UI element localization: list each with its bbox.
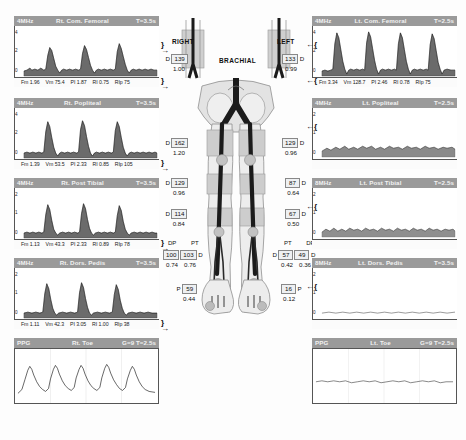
ppg-panel-rt-toe[interactable]: PPG Rt. Toe G=9 T=2.5s [14,338,159,404]
probe-frequency: 4MHz [17,16,43,26]
waveform-trace [313,188,457,239]
waveform-stats: Fm 1.96 Vm 75.4 PI 1.87 RI 0.75 RIp 75 [14,78,159,87]
pressure-toe-right[interactable]: P59 0.44 [175,284,197,303]
vessel-name: Lt. Dors. Pedis [341,258,420,268]
pressure-index: 1.20 [170,149,188,157]
waveform-header: 4MHz Lt. Com. Femoral T=2.5s [312,16,457,26]
pressure-ankle-right[interactable]: 100103D 0.740.76 [163,250,204,269]
stat-ri: RI 0.75 [92,79,108,85]
y-tick: 2 [313,112,316,117]
stat-fm: Fm 1.96 [21,79,40,85]
waveform-panel-lt-dors-pedis[interactable]: 8MHz Lt. Dors. Pedis T=3.5s 2 1 0 ←{ [312,258,457,329]
y-axis-ticks: 2 1 0 [313,268,322,319]
y-tick: 2 [313,192,316,197]
y-tick: 0 [15,230,18,235]
stat-vm: Vm 75.4 [46,79,65,85]
pressure-marker: P [175,285,182,293]
pressure-brachial-right[interactable]: D139 1.00 [164,54,188,73]
pressure-above-knee-right[interactable]: D129 0.96 [164,178,188,197]
pressure-ankle-left[interactable]: D5749D 0.420.36 [271,250,317,269]
y-axis-ticks: 4 2 0 [313,26,322,77]
stat-rip: RIp 38 [114,321,129,327]
pt-label: PT [191,240,199,246]
y-tick: 0 [313,150,316,155]
waveform-panel-rt-post-tibial[interactable]: 4MHz Rt. Post Tibial T=3.5s 2 1 0 Fm 1.1… [14,178,159,249]
y-tick: 0 [313,310,316,315]
pressure-below-knee-right[interactable]: D114 0.84 [164,209,187,228]
stat-rip: RIp 78 [115,241,130,247]
ppg-plot[interactable] [312,348,457,404]
waveform-plot[interactable]: 2 1 0 [312,188,457,240]
probe-frequency: 4MHz [17,178,43,188]
pressure-value: 139 [171,54,187,64]
vessel-name: Rt. Com. Femoral [43,16,122,26]
stat-ri: RI 0.89 [92,241,108,247]
waveform-plot[interactable]: 4 2 0 [14,26,159,78]
pressure-value: 87 [285,178,300,188]
pressure-value: 162 [171,138,187,148]
ppg-panel-lt-toe[interactable]: PPG Lt. Toe G=9 T=2.5s [312,338,457,404]
pressure-index: 0.99 [282,65,300,73]
waveform-header: 8MHz Lt. Dors. Pedis T=3.5s [312,258,457,268]
y-axis-ticks: 2 1 0 [15,268,24,319]
sweep-time: T=3.5s [122,178,156,188]
waveform-plot[interactable]: 2 1 0 [312,268,457,320]
y-tick: 1 [15,210,18,215]
vessel-name: Lt. Popliteal [341,98,420,108]
left-side-label: LEFT [277,38,294,45]
stat-vm: Vm 43.3 [46,241,65,247]
pressure-value: 114 [171,209,187,219]
stat-pi: PI 2.46 [371,79,387,85]
waveform-panel-rt-com-femoral[interactable]: 4MHz Rt. Com. Femoral T=3.5s 4 2 0 Fm 1.… [14,16,159,87]
pressure-above-knee-left[interactable]: 87D 0.64 [285,178,307,197]
pressure-marker: D [197,251,204,259]
y-tick: 2 [15,130,18,135]
pressure-index: 0.44 [181,295,197,303]
waveform-plot[interactable]: 2 1 0 [14,268,159,320]
pressure-marker: D [298,139,305,147]
pressure-brachial-left[interactable]: 133D 0.99 [282,54,306,73]
waveform-panel-lt-post-tibial[interactable]: 8MHz Lt. Post Tibial T=2.5s 2 1 0 ←{ [312,178,457,249]
pressure-index: 0.12 [281,295,297,303]
y-tick: 2 [15,272,18,277]
stat-fm: Fm 3.34 [319,79,338,85]
waveform-panel-rt-popliteal[interactable]: 4MHz Rt. Popliteal T=3.5s 4 2 0 Fm 1.39 … [14,98,159,169]
waveform-panel-rt-dors-pedis[interactable]: 4MHz Rt. Dors. Pedis T=3.5s 2 1 0 Fm 1.1… [14,258,159,329]
right-side-label: RIGHT [172,38,194,45]
waveform-plot[interactable]: 4 2 0 [312,26,457,78]
ppg-header: PPG Rt. Toe G=9 T=2.5s [14,338,159,348]
waveform-trace [15,26,159,77]
sweep-time: T=3.5s [122,98,156,108]
sweep-time: T=2.5s [420,98,454,108]
pressure-high-thigh-right[interactable]: D162 1.20 [164,138,188,157]
stat-fm: Fm 1.39 [21,161,40,167]
scale-marker-icon: ←{ [306,124,317,130]
waveform-plot[interactable]: 2 1 0 [14,188,159,240]
pressure-index: 0.50 [285,220,301,228]
y-axis-ticks: 2 1 0 [313,108,322,159]
probe-frequency: 4MHz [315,16,341,26]
pressure-toe-left[interactable]: 16P 0.12 [281,284,303,303]
ppg-header: PPG Lt. Toe G=9 T=2.5s [312,338,457,348]
scale-marker-icon: ←{ [306,204,317,210]
pressure-index: 0.96 [170,189,188,197]
waveform-panel-lt-com-femoral[interactable]: 4MHz Lt. Com. Femoral T=2.5s 4 2 0 Fm 3.… [312,16,457,87]
stat-vm: Vm 42.3 [45,321,64,327]
pressure-value: 59 [182,284,197,294]
waveform-panel-lt-popliteal[interactable]: 4MHz Lt. Popliteal T=2.5s 2 1 0 ←{ [312,98,457,169]
y-tick: 2 [313,272,316,277]
pressure-value: 16 [281,284,296,294]
pressure-value-pt: 57 [278,250,293,260]
waveform-trace [313,268,457,319]
ppg-plot[interactable] [14,348,159,404]
scale-marker-icon: ←{ [306,42,317,48]
stat-rip: RIp 105 [115,161,133,167]
feet [202,280,270,314]
waveform-plot[interactable]: 4 2 0 [14,108,159,160]
waveform-plot[interactable]: 2 1 0 [312,108,457,160]
waveform-stats: Fm 1.13 Vm 43.3 PI 2.33 RI 0.89 RIp 78 [14,240,159,249]
y-tick: 2 [15,192,18,197]
ankle-headers-right: DP PT [168,240,199,246]
pressure-below-knee-left[interactable]: 67D 0.50 [285,209,307,228]
pressure-high-thigh-left[interactable]: 129D 0.96 [282,138,306,157]
